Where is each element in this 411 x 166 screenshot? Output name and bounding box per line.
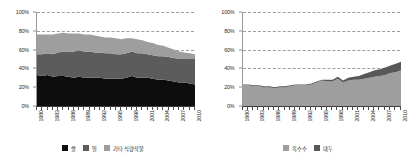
y-axis-left: 0%20%40%60%80%100%	[0, 12, 33, 106]
y-tick-label: 0%	[227, 103, 235, 109]
y-tick-label: 20%	[19, 84, 29, 90]
chart-panel-left: 0%20%40%60%80%100% 198019831986198919921…	[0, 0, 206, 166]
x-tick-label: 1983	[54, 110, 60, 122]
x-tick-mark	[194, 106, 195, 110]
x-tick-mark	[400, 106, 401, 110]
legend-right: 옥수수대두	[206, 142, 411, 154]
legend-item[interactable]: 밀	[83, 145, 97, 152]
y-tick-label: 80%	[224, 28, 234, 34]
x-tick-label: 1995	[117, 110, 123, 122]
legend-item[interactable]: 기타 식량작물	[104, 145, 144, 152]
y-tick-label: 40%	[224, 65, 234, 71]
legend-left: 쌀밀기타 식량작물	[0, 142, 206, 154]
plot-box-left	[36, 12, 194, 106]
stacked-area-left	[37, 12, 195, 106]
x-tick-label: 2007	[386, 110, 392, 122]
y-tick-label: 20%	[224, 84, 234, 90]
x-axis-labels-right: 1980198319861989199219951998200120042007…	[242, 110, 400, 140]
y-tick-label: 100%	[221, 9, 234, 15]
x-tick-label: 2001	[354, 110, 360, 122]
chart-panel-right: 0%20%40%60%80%100% 198019831986198919921…	[206, 0, 411, 166]
legend-swatch-icon	[283, 145, 289, 151]
legend-item[interactable]: 쌀	[62, 145, 76, 152]
legend-label: 대두	[323, 145, 333, 152]
legend-label: 쌀	[71, 145, 76, 152]
x-tick-label: 1986	[275, 110, 281, 122]
legend-swatch-icon	[104, 145, 110, 151]
x-tick-label: 1986	[70, 110, 76, 122]
y-tick-label: 60%	[224, 47, 234, 53]
figure: 0%20%40%60%80%100% 198019831986198919921…	[0, 0, 411, 166]
x-tick-label: 2010	[402, 110, 408, 122]
x-tick-label: 2007	[180, 110, 186, 122]
x-tick-label: 2004	[164, 110, 170, 122]
y-tick-label: 60%	[19, 47, 29, 53]
legend-swatch-icon	[314, 145, 320, 151]
x-tick-label: 1992	[101, 110, 107, 122]
x-tick-label: 2001	[149, 110, 155, 122]
legend-label: 밀	[92, 145, 97, 152]
plot-area-left: 0%20%40%60%80%100% 198019831986198919921…	[0, 0, 206, 120]
stacked-area-right	[243, 12, 401, 106]
x-tick-label: 2010	[196, 110, 202, 122]
x-tick-label: 1989	[85, 110, 91, 122]
x-axis-labels-left: 1980198319861989199219951998200120042007…	[36, 110, 194, 140]
x-tick-label: 1995	[323, 110, 329, 122]
plot-box-right	[242, 12, 400, 106]
x-tick-label: 1980	[244, 110, 250, 122]
legend-label: 기타 식량작물	[113, 145, 144, 152]
y-tick-label: 40%	[19, 65, 29, 71]
y-tick-label: 80%	[19, 28, 29, 34]
x-tick-label: 1983	[259, 110, 265, 122]
legend-swatch-icon	[83, 145, 89, 151]
x-tick-label: 1998	[338, 110, 344, 122]
y-axis-right: 0%20%40%60%80%100%	[206, 12, 239, 106]
x-tick-label: 1992	[307, 110, 313, 122]
legend-label: 옥수수	[292, 145, 307, 152]
y-tick-label: 100%	[16, 9, 29, 15]
y-tick-label: 0%	[22, 103, 30, 109]
legend-item[interactable]: 옥수수	[283, 145, 307, 152]
legend-swatch-icon	[62, 145, 68, 151]
legend-item[interactable]: 대두	[314, 145, 333, 152]
x-tick-label: 1989	[291, 110, 297, 122]
x-tick-label: 1998	[133, 110, 139, 122]
x-tick-label: 1980	[38, 110, 44, 122]
plot-area-right: 0%20%40%60%80%100% 198019831986198919921…	[206, 0, 411, 120]
x-tick-label: 2004	[370, 110, 376, 122]
